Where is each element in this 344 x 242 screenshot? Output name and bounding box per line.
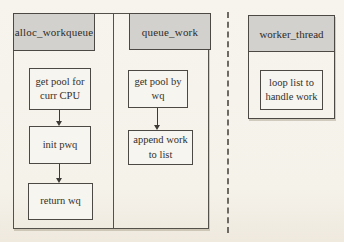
step-get-pool-for-curr-cpu: get pool for curr CPU	[29, 68, 91, 110]
worker-thread-header: worker_thread	[249, 16, 334, 52]
dashed-separator-line	[227, 12, 229, 233]
alloc-workqueue-header: alloc_workqueue	[13, 13, 95, 51]
flowchart-canvas: alloc_workqueue queue_work get pool for …	[0, 0, 344, 242]
lane-divider-line	[113, 13, 114, 229]
step-get-pool-by-wq: get pool by wq	[128, 70, 188, 108]
worker-thread-frame: worker_thread loop list to handle work	[248, 15, 335, 119]
step-loop-list-handle-work: loop list to handle work	[260, 70, 323, 110]
step-init-pwq: init pwq	[29, 126, 91, 164]
step-return-wq: return wq	[28, 183, 93, 220]
down-arrow-icon	[157, 108, 158, 125]
down-arrow-icon	[59, 164, 60, 178]
step-append-work-to-list: append work to list	[128, 130, 193, 165]
queue-work-header: queue_work	[129, 13, 211, 50]
down-arrow-icon	[59, 110, 60, 121]
